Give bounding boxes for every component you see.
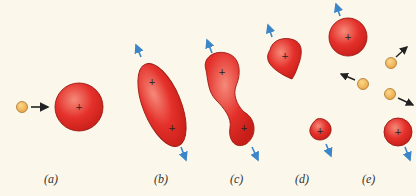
- panel-b: + +: [128, 45, 196, 160]
- panel-label-a: (a): [44, 172, 58, 187]
- panel-label-c: (c): [230, 172, 243, 187]
- charge-center: +: [240, 123, 248, 133]
- fission-diagram: + + + + + + + + +: [0, 0, 416, 196]
- neutron: [386, 58, 397, 69]
- motion-arrow-icon: [136, 45, 141, 57]
- motion-arrow-icon: [336, 4, 340, 16]
- charge-center: +: [168, 123, 176, 133]
- charge-center: +: [316, 126, 324, 136]
- neutron-arrow-icon: [396, 47, 407, 57]
- panel-c: + +: [205, 40, 258, 160]
- charge-center: +: [344, 32, 352, 42]
- charge-center: +: [281, 51, 289, 61]
- neutron: [385, 89, 396, 100]
- motion-arrow-icon: [207, 40, 212, 53]
- neutron: [17, 102, 28, 113]
- neutron-arrow-icon: [341, 74, 355, 80]
- motion-arrow-icon: [326, 144, 331, 156]
- panel-label-b: (b): [154, 172, 168, 187]
- charge-center: +: [218, 67, 226, 77]
- panel-label-e: (e): [362, 172, 375, 187]
- elongated-nucleus: [128, 57, 196, 153]
- motion-arrow-icon: [252, 147, 258, 160]
- panel-d: + +: [268, 25, 332, 156]
- neutron: [358, 79, 369, 90]
- charge-center: +: [394, 127, 402, 137]
- panel-a: +: [17, 83, 104, 131]
- panel-e: + +: [329, 4, 413, 160]
- panel-label-d: (d): [295, 172, 309, 187]
- charge-center: +: [75, 102, 83, 112]
- motion-arrow-icon: [405, 147, 410, 160]
- charge-center: +: [148, 77, 156, 87]
- motion-arrow-icon: [181, 147, 186, 160]
- neutron-arrow-icon: [398, 98, 413, 105]
- motion-arrow-icon: [268, 25, 272, 37]
